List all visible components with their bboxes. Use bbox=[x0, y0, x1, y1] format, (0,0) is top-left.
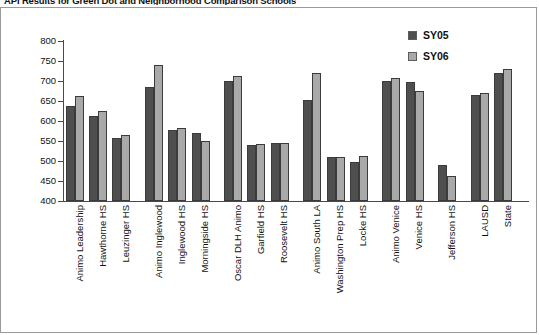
bar-sy05-16 bbox=[494, 73, 503, 201]
plot-area bbox=[64, 41, 526, 201]
y-axis-tick bbox=[58, 121, 64, 122]
y-axis-labels: 800750700650600550500450400 bbox=[26, 0, 56, 335]
bar-sy06-6 bbox=[233, 76, 242, 201]
y-axis-tick bbox=[58, 141, 64, 142]
x-axis-label-text: Animo Leadership bbox=[75, 205, 85, 282]
y-axis-tick-label: 650 bbox=[30, 96, 56, 106]
y-axis-tick-label: 500 bbox=[30, 156, 56, 166]
x-axis-label-14: Jefferson HS bbox=[447, 205, 457, 260]
x-axis-label-12: Animo Venice bbox=[391, 205, 401, 263]
bar-sy05-1 bbox=[89, 116, 98, 201]
y-axis-tick bbox=[58, 81, 64, 82]
x-axis-label-text: Animo South LA bbox=[312, 205, 322, 274]
bar-sy05-6 bbox=[224, 81, 233, 201]
y-axis-tick-label: 450 bbox=[30, 176, 56, 186]
y-axis-tick-label: 750 bbox=[30, 56, 56, 66]
x-axis-label-text: Inglewood HS bbox=[177, 205, 187, 264]
x-axis-label-4: Inglewood HS bbox=[177, 205, 187, 264]
x-axis-label-15: LAUSD bbox=[480, 205, 490, 237]
bar-sy05-8 bbox=[271, 143, 280, 201]
y-axis-tick-label: 600 bbox=[30, 116, 56, 126]
x-axis-label-13: Venice HS bbox=[414, 205, 424, 249]
y-axis-tick-label: 700 bbox=[30, 76, 56, 86]
x-axis-label-text: Roosevelt HS bbox=[279, 205, 289, 263]
bar-sy06-15 bbox=[480, 93, 489, 201]
y-axis-tick bbox=[58, 101, 64, 102]
bar-sy06-0 bbox=[75, 96, 84, 201]
bar-sy05-13 bbox=[406, 82, 415, 201]
bar-sy06-13 bbox=[415, 91, 424, 201]
y-axis-tick-label: 800 bbox=[30, 36, 56, 46]
y-axis-tick bbox=[58, 41, 64, 42]
bar-sy06-2 bbox=[121, 135, 130, 201]
bar-sy05-7 bbox=[247, 145, 256, 201]
bar-sy06-3 bbox=[154, 65, 163, 201]
bar-sy06-14 bbox=[447, 176, 456, 201]
bar-sy05-3 bbox=[145, 87, 154, 201]
bar-sy06-11 bbox=[359, 156, 368, 201]
bar-sy06-5 bbox=[201, 141, 210, 201]
x-axis-label-3: Animo Inglewood bbox=[154, 205, 164, 278]
y-axis-tick-label: 550 bbox=[30, 136, 56, 146]
x-axis-label-11: Locke HS bbox=[358, 205, 368, 246]
x-axis-label-text: Washington Prep HS bbox=[335, 205, 345, 293]
bar-sy06-8 bbox=[280, 143, 289, 201]
bar-sy05-15 bbox=[471, 95, 480, 201]
bar-sy06-12 bbox=[391, 78, 400, 201]
x-axis-label-text: State bbox=[503, 205, 513, 227]
bar-sy05-11 bbox=[350, 162, 359, 201]
legend-label-sy05: SY05 bbox=[423, 30, 449, 41]
y-axis-tick bbox=[58, 161, 64, 162]
x-axis-label-text: Locke HS bbox=[358, 205, 368, 246]
bar-sy05-12 bbox=[382, 81, 391, 201]
x-axis-label-6: Oscar DLH Animo bbox=[233, 205, 243, 281]
x-axis-label-text: Hawthorne HS bbox=[98, 205, 108, 267]
x-axis-label-9: Animo South LA bbox=[312, 205, 322, 274]
bar-sy05-9 bbox=[303, 100, 312, 201]
y-axis-tick bbox=[58, 61, 64, 62]
x-axis-label-text: Venice HS bbox=[414, 205, 424, 249]
x-axis-label-text: Animo Venice bbox=[391, 205, 401, 263]
x-axis-label-0: Animo Leadership bbox=[75, 205, 85, 282]
x-axis-label-text: Garfield HS bbox=[256, 205, 266, 254]
bar-sy05-4 bbox=[168, 130, 177, 201]
x-axis-label-7: Garfield HS bbox=[256, 205, 266, 254]
x-axis-label-text: Morningside HS bbox=[200, 205, 210, 273]
bar-sy06-16 bbox=[503, 69, 512, 201]
x-axis-labels: Animo LeadershipHawthorne HSLeuzinger HS… bbox=[64, 205, 530, 331]
bar-sy06-7 bbox=[256, 144, 265, 201]
bar-sy05-0 bbox=[66, 106, 75, 201]
bar-sy06-1 bbox=[98, 111, 107, 201]
y-axis-tick bbox=[58, 201, 64, 202]
x-axis-label-text: Oscar DLH Animo bbox=[233, 205, 243, 281]
x-axis-label-text: LAUSD bbox=[480, 205, 490, 237]
bar-sy06-10 bbox=[336, 157, 345, 201]
x-axis-label-16: State bbox=[503, 205, 513, 227]
x-axis-label-5: Morningside HS bbox=[200, 205, 210, 273]
y-axis-tick bbox=[58, 181, 64, 182]
x-axis-label-text: Jefferson HS bbox=[447, 205, 457, 260]
x-axis-label-10: Washington Prep HS bbox=[335, 205, 345, 293]
bar-sy05-2 bbox=[112, 138, 121, 201]
x-axis-label-2: Leuzinger HS bbox=[121, 205, 131, 263]
legend-swatch-sy05 bbox=[408, 31, 417, 40]
x-axis-label-text: Leuzinger HS bbox=[121, 205, 131, 263]
bar-sy05-14 bbox=[438, 165, 447, 201]
bar-sy06-9 bbox=[312, 73, 321, 201]
bar-sy06-4 bbox=[177, 128, 186, 201]
x-axis-label-8: Roosevelt HS bbox=[279, 205, 289, 263]
y-axis-tick-label: 400 bbox=[30, 196, 56, 206]
bar-sy05-10 bbox=[327, 157, 336, 201]
x-axis-label-1: Hawthorne HS bbox=[98, 205, 108, 267]
x-axis-label-text: Animo Inglewood bbox=[154, 205, 164, 278]
bar-sy05-5 bbox=[192, 133, 201, 201]
x-axis-line bbox=[63, 201, 529, 202]
